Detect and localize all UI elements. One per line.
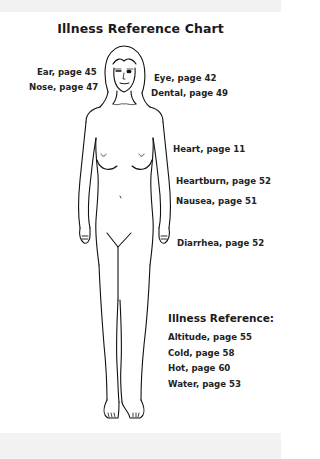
label-nose: Nose, page 47 xyxy=(29,82,98,92)
illness-reference-title: Illness Reference: xyxy=(168,312,274,324)
label-heart: Heart, page 11 xyxy=(173,144,245,154)
label-dental: Dental, page 49 xyxy=(151,88,228,98)
label-ear: Ear, page 45 xyxy=(37,67,97,77)
label-diarrhea: Diarrhea, page 52 xyxy=(177,238,264,248)
reference-item-altitude: Altitude, page 55 xyxy=(168,332,252,342)
label-eye: Eye, page 42 xyxy=(154,73,216,83)
reference-item-cold: Cold, page 58 xyxy=(168,348,234,358)
reference-item-water: Water, page 53 xyxy=(168,379,241,389)
label-heartburn: Heartburn, page 52 xyxy=(176,176,271,186)
label-nausea: Nausea, page 51 xyxy=(176,196,257,206)
reference-item-hot: Hot, page 60 xyxy=(168,363,230,373)
